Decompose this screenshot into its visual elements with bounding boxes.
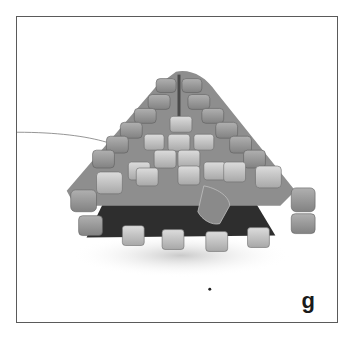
figure-frame: g <box>16 16 338 323</box>
figure-label: g <box>302 290 315 312</box>
thread-tail <box>17 132 106 142</box>
beadwork-photo <box>17 17 337 322</box>
